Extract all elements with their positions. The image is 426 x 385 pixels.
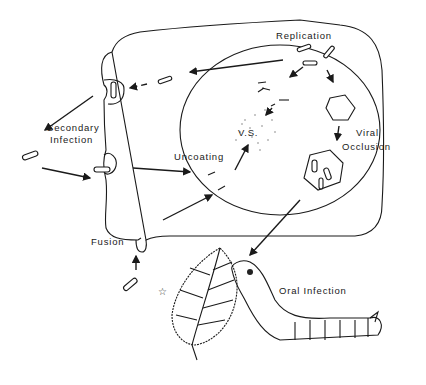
occlusion-body-large bbox=[304, 150, 343, 190]
label-secondary: Secondary bbox=[47, 122, 100, 133]
label-oral-infection: Oral Infection bbox=[279, 285, 347, 296]
vs-label: V.S. bbox=[238, 127, 258, 138]
label-fusion: Fusion bbox=[91, 236, 124, 247]
virions bbox=[22, 44, 335, 292]
label-occlusion: Occlusion bbox=[342, 141, 391, 152]
caterpillar bbox=[232, 261, 382, 340]
label-infection: Infection bbox=[50, 134, 93, 145]
fusion-dent bbox=[136, 240, 146, 252]
star-mark: ☆ bbox=[158, 286, 167, 297]
label-viral: Viral bbox=[356, 127, 379, 138]
label-uncoating: Uncoating bbox=[174, 151, 224, 162]
nucleus bbox=[180, 45, 380, 215]
leaf bbox=[172, 248, 237, 360]
label-replication: Replication bbox=[276, 30, 332, 41]
viral-infection-cycle-diagram: V.S. bbox=[0, 0, 426, 385]
occlusion-body-small bbox=[326, 95, 355, 120]
